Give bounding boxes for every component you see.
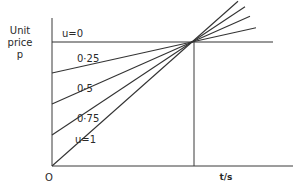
- x-axis-label: t/s: [220, 172, 233, 182]
- y-axis-label-line-3: p: [17, 49, 23, 60]
- line-label-u075: 0·75: [77, 113, 99, 124]
- line-label-u025: 0·25: [77, 53, 99, 64]
- line-label-u05: 0·5: [77, 83, 93, 94]
- origin-label: O: [45, 172, 53, 183]
- y-axis-label-line-2: price: [8, 37, 33, 48]
- unit-price-diagram: Unit price p O t/s u=0 0·25 0·5 0·75 u=1: [0, 0, 303, 187]
- y-axis-label-line-1: Unit: [10, 25, 30, 36]
- line-label-u0: u=0: [62, 28, 83, 39]
- line-label-u1: u=1: [75, 134, 96, 145]
